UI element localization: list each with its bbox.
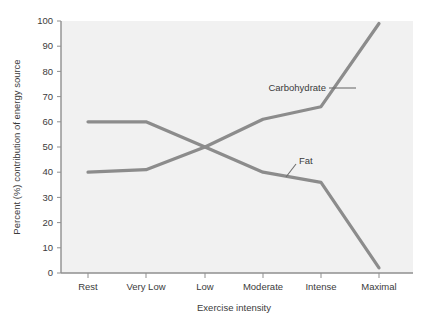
series-label-carbohydrate: Carbohydrate: [268, 82, 326, 93]
x-tick-label-intense: Intense: [305, 281, 336, 292]
y-tick-label: 60: [42, 116, 53, 127]
x-tick-label-very-low: Very Low: [126, 281, 165, 292]
y-tick-label: 40: [42, 166, 53, 177]
series-label-fat: Fat: [299, 155, 313, 166]
y-axis-title: Percent (%) contribution of energy sourc…: [11, 59, 22, 234]
x-tick-label-maximal: Maximal: [361, 281, 396, 292]
x-axis-title: Exercise intensity: [197, 302, 271, 313]
y-tick-label: 90: [42, 40, 53, 51]
y-tick-label: 0: [48, 267, 53, 278]
line-chart-svg: 0 10 20 30 40 50 60 70 80 90 100 Rest Ve…: [0, 0, 423, 322]
y-tick-label: 10: [42, 242, 53, 253]
plot-area-background: [61, 21, 413, 273]
y-tick-label: 100: [37, 15, 53, 26]
y-tick-label: 80: [42, 66, 53, 77]
y-tick-label: 70: [42, 91, 53, 102]
chart-figure: 0 10 20 30 40 50 60 70 80 90 100 Rest Ve…: [0, 0, 423, 322]
x-tick-label-low: Low: [196, 281, 214, 292]
x-tick-label-rest: Rest: [78, 281, 98, 292]
y-tick-label: 20: [42, 217, 53, 228]
y-tick-label: 30: [42, 192, 53, 203]
y-tick-label: 50: [42, 141, 53, 152]
x-tick-label-moderate: Moderate: [243, 281, 283, 292]
